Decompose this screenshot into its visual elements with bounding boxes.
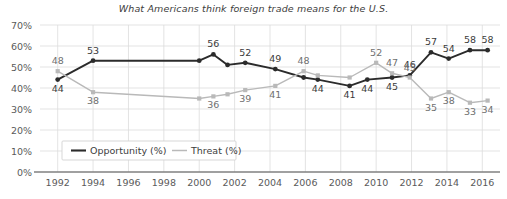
- data-label: 48: [298, 55, 310, 66]
- data-label: 36: [207, 99, 219, 110]
- data-point-threat[interactable]: [468, 101, 472, 105]
- data-point-opportunity[interactable]: [365, 77, 370, 82]
- data-label: 45: [404, 62, 416, 73]
- data-point-threat[interactable]: [408, 75, 412, 79]
- data-point-opportunity[interactable]: [273, 67, 278, 72]
- data-point-threat[interactable]: [243, 88, 247, 92]
- data-point-opportunity[interactable]: [301, 75, 306, 80]
- data-point-threat[interactable]: [211, 94, 215, 98]
- data-label: 33: [464, 106, 476, 117]
- x-axis-tick-label: 1994: [81, 177, 105, 188]
- data-point-opportunity[interactable]: [55, 77, 60, 82]
- data-point-threat[interactable]: [197, 96, 201, 100]
- data-label: 52: [370, 47, 382, 58]
- y-axis-tick-labels: 0%10%20%30%40%50%60%70%: [11, 20, 32, 178]
- data-point-threat[interactable]: [374, 61, 378, 65]
- data-point-opportunity[interactable]: [390, 75, 395, 80]
- y-axis-tick-label: 30%: [11, 104, 32, 115]
- data-point-threat[interactable]: [390, 71, 394, 75]
- data-point-threat[interactable]: [348, 75, 352, 79]
- data-label: 56: [207, 38, 219, 49]
- x-axis-tick-label: 2006: [293, 177, 317, 188]
- data-label: 35: [425, 102, 437, 113]
- data-point-threat[interactable]: [56, 69, 60, 73]
- data-point-threat[interactable]: [273, 84, 277, 88]
- data-point-threat[interactable]: [225, 92, 229, 96]
- x-axis-tick-label: 2002: [223, 177, 247, 188]
- x-axis-tick-label: 2012: [399, 177, 423, 188]
- x-axis-tick-label: 2000: [187, 177, 211, 188]
- x-axis-tick-label: 1998: [152, 177, 176, 188]
- data-point-opportunity[interactable]: [197, 58, 202, 63]
- x-axis-tick-labels: 1992199419961998200020022004200620082010…: [46, 177, 495, 188]
- data-label: 45: [386, 81, 398, 92]
- data-label: 38: [443, 95, 455, 106]
- data-label: 34: [482, 104, 494, 115]
- line-chart-plot: 0%10%20%30%40%50%60%70% 1992199419961998…: [0, 0, 507, 199]
- data-label: 48: [52, 55, 64, 66]
- x-axis-tick-label: 1996: [116, 177, 140, 188]
- data-point-opportunity[interactable]: [91, 58, 96, 63]
- legend-label-opportunity[interactable]: Opportunity (%): [90, 145, 166, 156]
- chart-legend[interactable]: Opportunity (%)Threat (%): [62, 141, 241, 160]
- y-axis-tick-label: 40%: [11, 83, 32, 94]
- data-point-threat[interactable]: [302, 69, 306, 73]
- data-label: 41: [269, 89, 281, 100]
- x-axis-tick-label: 2004: [258, 177, 282, 188]
- data-point-labels: 4453565249444144454657545858483836394148…: [52, 34, 494, 117]
- y-axis-tick-label: 20%: [11, 125, 32, 136]
- data-point-opportunity[interactable]: [429, 50, 434, 55]
- y-axis-tick-label: 10%: [11, 146, 32, 157]
- data-point-threat[interactable]: [91, 90, 95, 94]
- data-label: 44: [361, 83, 373, 94]
- chart-container: What Americans think foreign trade means…: [0, 0, 507, 199]
- x-axis-tick-label: 2010: [364, 177, 388, 188]
- data-point-opportunity[interactable]: [446, 56, 451, 61]
- x-axis-tick-label: 2014: [435, 177, 459, 188]
- legend-label-threat[interactable]: Threat (%): [190, 145, 241, 156]
- data-point-opportunity[interactable]: [485, 48, 490, 53]
- x-axis-tick-label: 2008: [329, 177, 353, 188]
- data-label: 53: [87, 45, 99, 56]
- x-axis-tick-label: 1992: [46, 177, 70, 188]
- data-label: 49: [269, 53, 281, 64]
- data-label: 52: [239, 47, 251, 58]
- data-label: 39: [239, 93, 251, 104]
- data-label: 54: [443, 43, 455, 54]
- data-point-opportunity[interactable]: [243, 60, 248, 65]
- data-label: 44: [312, 83, 324, 94]
- y-axis-tick-label: 50%: [11, 62, 32, 73]
- data-label: 57: [425, 36, 437, 47]
- data-point-threat[interactable]: [429, 96, 433, 100]
- y-axis-tick-label: 0%: [17, 167, 32, 178]
- data-point-opportunity[interactable]: [468, 48, 473, 53]
- data-point-opportunity[interactable]: [211, 52, 216, 57]
- data-label: 44: [52, 83, 64, 94]
- data-point-threat[interactable]: [447, 90, 451, 94]
- x-axis-tick-label: 2016: [470, 177, 494, 188]
- data-label: 47: [386, 57, 398, 68]
- data-point-opportunity[interactable]: [225, 63, 230, 68]
- data-point-opportunity[interactable]: [315, 77, 320, 82]
- data-label: 58: [482, 34, 494, 45]
- data-label: 38: [87, 95, 99, 106]
- data-label: 58: [464, 34, 476, 45]
- data-point-threat[interactable]: [316, 73, 320, 77]
- data-label: 41: [344, 89, 356, 100]
- y-axis-tick-label: 60%: [11, 41, 32, 52]
- data-point-opportunity[interactable]: [347, 84, 352, 89]
- y-axis-tick-label: 70%: [11, 20, 32, 31]
- data-point-threat[interactable]: [486, 99, 490, 103]
